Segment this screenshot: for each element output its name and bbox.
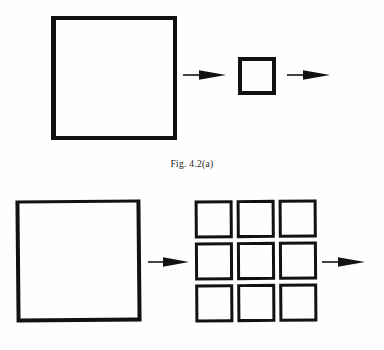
grid-cell xyxy=(279,200,317,238)
grid-cell xyxy=(279,242,317,280)
panel-a-small-square xyxy=(238,57,276,95)
panel-a-large-square xyxy=(51,16,177,140)
figure-panel-a: Fig. 4.2(a) xyxy=(0,0,384,178)
grid-cell xyxy=(195,284,233,322)
grid-cell xyxy=(279,284,317,322)
grid-cell xyxy=(237,200,275,238)
panel-a-arrow-small-to-next xyxy=(287,66,331,84)
grid-cell xyxy=(195,242,233,280)
grid-cell xyxy=(237,242,275,280)
figure-caption-a: Fig. 4.2(a) xyxy=(0,159,384,169)
panel-b-large-square xyxy=(15,199,141,322)
figure-panel-b xyxy=(0,178,384,350)
figure-root: Fig. 4.2(a) xyxy=(0,0,384,350)
panel-b-arrow-large-to-grid xyxy=(148,253,190,271)
panel-b-arrow-grid-to-next xyxy=(322,253,366,271)
grid-cell xyxy=(195,200,233,238)
grid-cell xyxy=(237,284,275,322)
panel-b-square-grid xyxy=(195,200,318,323)
panel-a-arrow-large-to-small xyxy=(183,66,227,84)
